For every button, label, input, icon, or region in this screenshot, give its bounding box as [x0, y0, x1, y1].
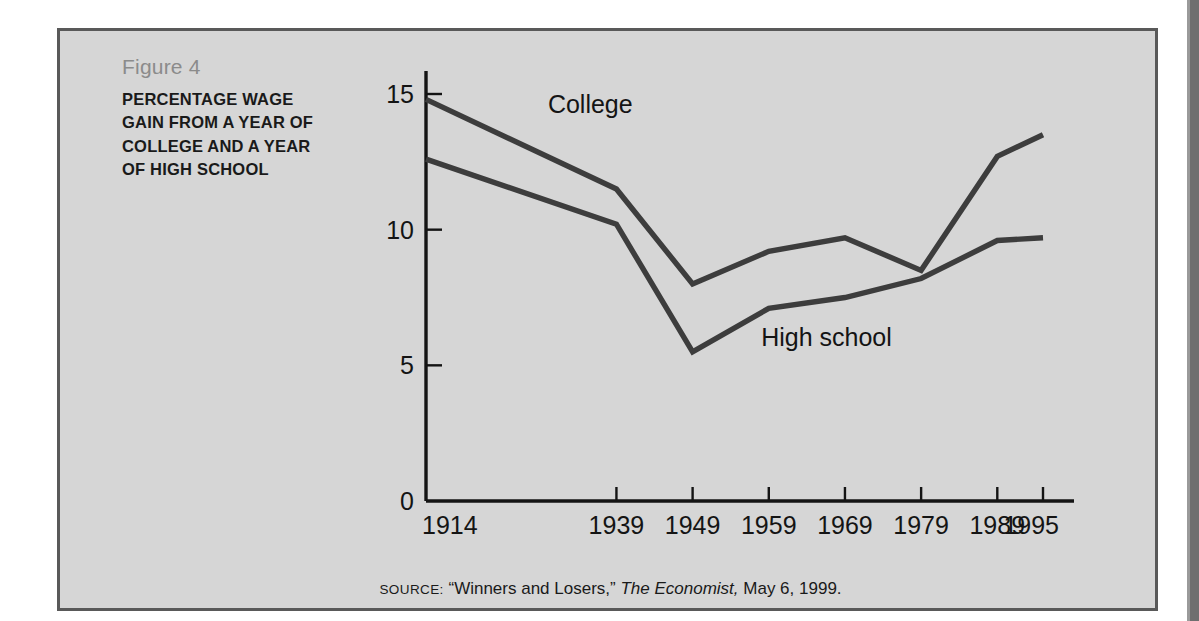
figure-panel: Figure 4 PERCENTAGE WAGE GAIN FROM A YEA… — [57, 28, 1158, 611]
source-publication: The Economist, — [620, 579, 738, 598]
x-tick-label: 1995 — [1003, 511, 1059, 539]
y-axis-tick-marks — [426, 94, 442, 365]
x-tick-label: 1939 — [589, 511, 645, 539]
x-axis-tick-labels: 19141939194919591969197919891995 — [422, 511, 1059, 539]
line-chart-svg: 051015 19141939194919591969197919891995 … — [60, 31, 1161, 614]
y-tick-label: 0 — [400, 487, 414, 515]
x-tick-label: 1969 — [817, 511, 873, 539]
y-axis-tick-labels: 051015 — [386, 80, 414, 515]
chart-plot-area: 051015 19141939194919591969197919891995 … — [60, 31, 1161, 614]
x-tick-label: 1959 — [741, 511, 797, 539]
y-tick-label: 10 — [386, 216, 414, 244]
source-note: SOURCE: “Winners and Losers,” The Econom… — [60, 579, 1161, 599]
x-axis-tick-marks — [616, 487, 1043, 501]
x-tick-label: 1949 — [665, 511, 721, 539]
source-date: May 6, 1999. — [743, 579, 841, 598]
y-tick-label: 5 — [400, 351, 414, 379]
page-edge-strip — [1190, 0, 1199, 621]
source-article-title: “Winners and Losers,” — [448, 579, 615, 598]
y-tick-label: 15 — [386, 80, 414, 108]
series-label-high-school: High school — [761, 323, 892, 351]
series-line-high-school — [426, 159, 1043, 352]
series-label-college: College — [548, 90, 633, 118]
page-edge-strip-inner — [1187, 0, 1190, 621]
source-kicker: SOURCE: — [379, 582, 443, 597]
x-tick-label: 1914 — [422, 511, 478, 539]
x-tick-label: 1979 — [893, 511, 949, 539]
